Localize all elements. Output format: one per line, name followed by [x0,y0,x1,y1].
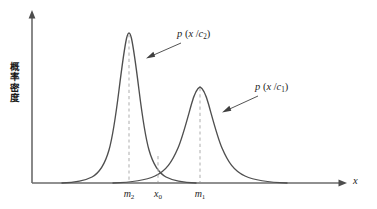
curve-label-p-x-c1-close: ) [285,81,289,92]
y-axis-arrowhead [29,10,36,19]
y-axis [29,10,36,183]
probability-density-figure: 概率密度 p (x /c2) p (x /c1) m2 x0 m1 x [0,0,377,209]
x-tick-label-m2: m2 [124,189,135,201]
curve-label-p-x-c2-close: ) [207,28,211,39]
x-axis-arrowhead [339,180,348,187]
pointer-p-x-c2 [146,43,181,59]
x-tick-label-x0: x0 [154,189,162,201]
x-tick-label-x0-sub: 0 [158,193,162,201]
x-tick-label-m2-sub: 2 [131,193,135,201]
pointer-p-x-c1 [222,96,258,113]
y-axis-title: 概率密度 [6,62,23,103]
x-tick-label-m1-sub: 1 [202,193,206,201]
curve-label-p-x-c1: p (x /c1) [255,82,288,94]
x-axis-name: x [353,176,358,187]
curve-label-p-x-c2: p (x /c2) [177,29,210,41]
x-tick-label-m1: m1 [195,189,206,201]
